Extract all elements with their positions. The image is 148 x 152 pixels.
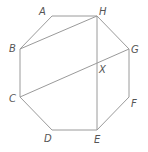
segment-bh [20,16,97,49]
vertex-label-d: D [44,133,52,144]
vertex-label-f: F [131,98,137,109]
segment-cg [20,49,129,97]
vertex-label-e: E [94,134,101,145]
vertex-label-b: B [9,43,16,54]
vertex-label-g: G [131,44,139,55]
vertex-label-a: A [38,6,46,17]
vertex-label-c: C [9,93,16,104]
vertex-label-h: H [99,6,107,17]
point-label-x: X [98,64,107,75]
octagon-diagram: A H G X F E D C B [0,0,148,152]
